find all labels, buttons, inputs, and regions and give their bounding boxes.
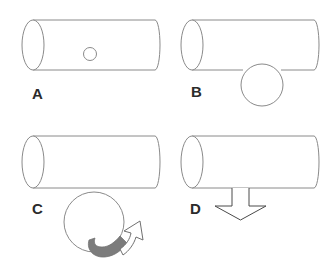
panel-c-curved-arrow-band	[88, 236, 127, 257]
panel-b-right-cap	[314, 20, 319, 70]
panel-d-right-cap	[314, 136, 319, 188]
panel-c-label: C	[32, 201, 43, 216]
panel-a-label: A	[32, 86, 43, 101]
panel-d-label: D	[190, 201, 201, 216]
panel-a-right-cap	[155, 20, 160, 70]
panel-c-group	[22, 136, 160, 257]
panel-a-hole-icon	[84, 48, 97, 61]
panel-d-left-cap	[181, 136, 203, 188]
panel-d-down-arrow-icon	[215, 188, 266, 220]
panel-c-right-cap	[155, 136, 160, 188]
figure-canvas: A B C D	[0, 0, 326, 268]
panel-d-group	[181, 136, 319, 220]
panel-b-left-cap	[181, 20, 203, 70]
panel-b-circle-marker	[241, 64, 283, 106]
panel-b-label: B	[191, 84, 202, 99]
panel-c-left-cap	[22, 136, 44, 188]
panel-a-left-cap	[22, 20, 44, 70]
cylinder-figure-svg	[0, 0, 326, 268]
panel-a-group	[22, 20, 160, 70]
